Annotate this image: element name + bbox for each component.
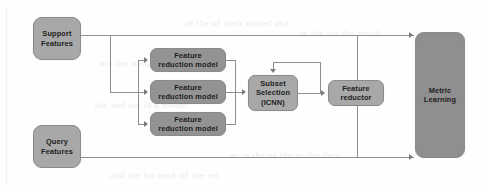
node-query-features[interactable]: Query Features xyxy=(33,125,81,168)
arrowhead-query-to-metric xyxy=(409,154,413,160)
metric-learning-line-2: Learning xyxy=(424,95,456,104)
arrowhead-to-frm-2 xyxy=(144,89,148,95)
arrowhead-merge-to-subset xyxy=(242,89,246,95)
bleed-text-line-2: in the for the result xyxy=(300,28,381,38)
frm-3-line-2: reduction model xyxy=(158,124,218,133)
support-features-line-2: Features xyxy=(41,39,73,48)
subset-selection-line-2: Selection xyxy=(256,88,290,97)
arrowhead-subset-to-reductor xyxy=(321,90,325,96)
edge-query-to-metric xyxy=(81,157,414,158)
frm-3-line-1: Feature xyxy=(158,115,218,124)
edge-from-frm-3 xyxy=(226,124,236,125)
frm-2-line-2: reduction model xyxy=(158,92,218,101)
arrowhead-to-frm-1 xyxy=(144,57,148,63)
page-edge-line xyxy=(6,8,7,184)
edge-subset-to-reductor xyxy=(298,93,322,94)
feature-reductor-line-2: reductor xyxy=(340,93,371,102)
arrowhead-to-frm-3 xyxy=(144,121,148,127)
support-features-line-1: Support xyxy=(41,29,73,38)
metric-learning-line-1: Metric xyxy=(424,86,456,95)
node-feature-reduction-model-3[interactable]: Feature reduction model xyxy=(150,112,226,136)
frm-1-line-1: Feature xyxy=(158,51,218,60)
edge-support-to-metric xyxy=(81,35,414,36)
edge-support-trunk-vertical xyxy=(110,35,111,92)
query-features-line-2: Features xyxy=(41,147,73,156)
bleed-text-line-5: as in the of the to the data xyxy=(230,150,340,160)
node-feature-reductor[interactable]: Feature reductor xyxy=(328,80,384,106)
node-support-features[interactable]: Support Features xyxy=(33,17,81,60)
feature-reductor-line-1: Feature xyxy=(340,84,371,93)
diagram-canvas: of the of their model and in the for the… xyxy=(0,0,484,190)
query-features-line-1: Query xyxy=(41,137,73,146)
node-feature-reduction-model-1[interactable]: Feature reduction model xyxy=(150,48,226,72)
bleed-text-line-6: and the for each of the set xyxy=(110,170,219,180)
frm-1-line-2: reduction model xyxy=(158,60,218,69)
subset-selection-line-3: (ICNN) xyxy=(256,98,290,107)
edge-feedback-horizontal xyxy=(273,62,321,63)
edge-feedback-vertical-right xyxy=(320,62,321,93)
frm-2-line-1: Feature xyxy=(158,83,218,92)
subset-selection-line-1: Subset xyxy=(256,79,290,88)
arrowhead-feedback-to-subset xyxy=(270,69,276,73)
arrowhead-support-to-metric xyxy=(409,32,413,38)
node-subset-selection[interactable]: Subset Selection (ICNN) xyxy=(248,75,298,111)
bleed-text-line-1: of the of their model and xyxy=(185,18,289,28)
node-metric-learning[interactable]: Metric Learning xyxy=(415,32,465,158)
edge-support-trunk-horizontal xyxy=(110,92,138,93)
node-feature-reduction-model-2[interactable]: Feature reduction model xyxy=(150,80,226,104)
